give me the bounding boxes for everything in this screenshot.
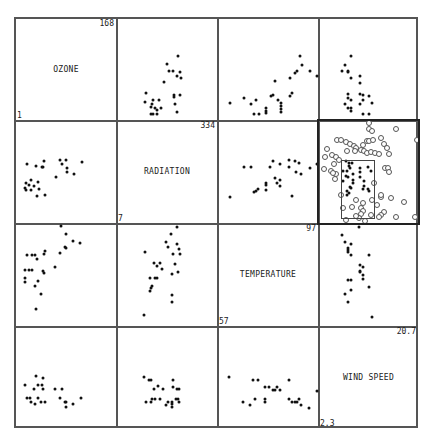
data-point <box>264 401 267 404</box>
data-point <box>250 103 253 106</box>
data-point <box>162 388 165 391</box>
scatter-panel[interactable] <box>117 327 217 429</box>
data-point <box>368 113 371 116</box>
data-point <box>347 71 350 74</box>
scatter-panel[interactable] <box>319 224 419 326</box>
data-point <box>55 176 58 179</box>
data-point <box>368 95 371 98</box>
scatter-panel[interactable] <box>117 19 217 121</box>
range-min: 57 <box>219 317 229 326</box>
data-point <box>257 379 260 382</box>
data-point <box>65 233 68 236</box>
scatter-panel[interactable] <box>218 121 318 223</box>
data-point <box>37 181 40 184</box>
data-point <box>54 266 57 269</box>
data-point <box>66 167 69 170</box>
data-point <box>37 384 40 387</box>
data-point <box>242 401 245 404</box>
scatterplot-matrix: OZONE 168 1 RADIATION 334 7 TEMPERATURE … <box>14 17 418 428</box>
data-point <box>150 106 153 109</box>
data-point <box>144 251 147 254</box>
scatter-panel[interactable] <box>218 19 318 121</box>
data-point <box>143 376 146 379</box>
data-point <box>165 241 168 244</box>
data-point <box>280 111 283 114</box>
scatter-panel[interactable] <box>117 224 217 326</box>
data-point <box>24 281 27 284</box>
data-point <box>72 403 75 406</box>
data-point <box>279 163 282 166</box>
data-point <box>60 225 63 228</box>
data-point <box>299 55 302 58</box>
data-point <box>309 167 312 170</box>
scatter-panel[interactable] <box>16 327 116 429</box>
data-point <box>43 253 46 256</box>
data-point <box>344 103 347 106</box>
data-point <box>350 99 353 102</box>
data-point <box>253 191 256 194</box>
scatter-panel[interactable] <box>218 327 318 429</box>
scatter-panel[interactable] <box>16 121 116 223</box>
data-point <box>265 184 268 187</box>
data-point <box>294 160 297 163</box>
data-point <box>170 233 173 236</box>
data-point <box>65 159 68 162</box>
data-point <box>81 161 84 164</box>
data-point <box>174 103 177 106</box>
data-point <box>171 294 174 297</box>
data-point <box>30 179 33 182</box>
data-point <box>172 379 175 382</box>
data-point <box>28 184 31 187</box>
data-point <box>44 194 47 197</box>
data-point <box>179 253 182 256</box>
data-point <box>341 70 344 73</box>
data-point <box>159 262 162 265</box>
scatter-panel[interactable] <box>319 19 419 121</box>
data-point <box>350 110 353 113</box>
scatter-panel[interactable] <box>16 224 116 326</box>
data-point <box>42 377 45 380</box>
data-point <box>61 388 64 391</box>
data-point <box>158 99 161 102</box>
data-point <box>362 266 365 269</box>
data-point <box>264 386 267 389</box>
data-point <box>151 398 154 401</box>
diag-cell-wind-speed: WIND SPEED 20.7 2.3 <box>319 327 418 428</box>
data-point <box>296 70 299 73</box>
data-point <box>161 268 164 271</box>
data-point <box>65 401 68 404</box>
data-point <box>79 242 82 245</box>
data-point <box>172 386 175 389</box>
data-point <box>156 265 159 268</box>
data-point <box>359 271 362 274</box>
data-point <box>174 263 177 266</box>
data-point <box>24 269 27 272</box>
data-point <box>359 82 362 85</box>
data-point <box>350 243 353 246</box>
data-point <box>253 113 256 116</box>
data-point <box>347 301 350 304</box>
data-point <box>255 99 258 102</box>
data-point <box>59 397 62 400</box>
range-max: 20.7 <box>397 327 416 336</box>
data-point <box>179 71 182 74</box>
diag-cell-ozone: OZONE 168 1 <box>16 19 116 120</box>
data-point <box>288 379 291 382</box>
data-point <box>43 272 46 275</box>
data-point <box>316 390 319 393</box>
data-point <box>37 280 40 283</box>
variable-label: TEMPERATURE <box>218 270 318 279</box>
range-max: 334 <box>201 121 215 130</box>
data-point <box>362 99 365 102</box>
data-point <box>177 271 180 274</box>
data-point <box>359 103 362 106</box>
data-point <box>362 113 365 116</box>
data-point <box>176 111 179 114</box>
data-point <box>295 171 298 174</box>
data-point <box>149 277 152 280</box>
data-point <box>229 196 232 199</box>
data-point <box>368 286 371 289</box>
data-point <box>167 246 170 249</box>
data-point <box>265 112 268 115</box>
data-point <box>34 254 37 257</box>
